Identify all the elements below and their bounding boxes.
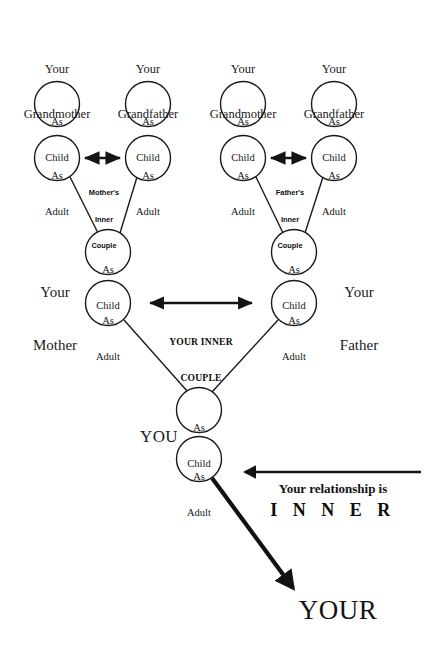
inner-couple-diagram: Your Grandmother Your Grandfather Your G… (0, 0, 429, 651)
title-your-father-line1: Your (326, 284, 392, 302)
title-maternal-grandmother-line1: Your (7, 62, 107, 77)
label-line2: Adult (173, 507, 225, 519)
caption-line2: Inner (262, 216, 318, 225)
label-father-as-adult: As Adult (268, 291, 320, 388)
label-line1: As (217, 116, 269, 128)
label-mother-as-adult: As Adult (82, 291, 134, 388)
caption-line1: YOUR INNER (151, 336, 251, 348)
label-line1: As (268, 264, 320, 276)
label-you-as-adult: As Adult (173, 447, 225, 544)
title-maternal-grandfather-line1: Your (98, 62, 198, 77)
label-line1: As (173, 422, 225, 434)
label-line1: As (173, 471, 225, 483)
caption-line1: Mother's (76, 189, 132, 198)
caption-your-inner-couple: YOUR INNER COUPLE (151, 312, 251, 408)
label-line1: As (82, 264, 134, 276)
title-paternal-grandmother-line1: Your (193, 62, 293, 77)
label-line2: Adult (82, 351, 134, 363)
label-line1: As (82, 315, 134, 327)
label-line2: Adult (268, 351, 320, 363)
relationship-line1: Your relationship is (253, 482, 413, 496)
title-your-mother-line1: Your (22, 284, 88, 302)
title-your-father: Your Father (326, 249, 392, 391)
title-paternal-grandfather-line1: Your (284, 62, 384, 77)
caption-line1: Father's (262, 189, 318, 198)
label-you: YOU (118, 428, 178, 446)
caption-line2: COUPLE (151, 372, 251, 384)
label-line1: As (122, 116, 174, 128)
caption-line2: Inner (76, 216, 132, 225)
relationship-line2: I N N E R (253, 501, 413, 520)
label-line1: As (308, 116, 360, 128)
title-your-mother-line2: Mother (22, 337, 88, 355)
label-line1: As (31, 116, 83, 128)
label-your-outcome: YOUR (283, 596, 393, 625)
title-your-mother: Your Mother (22, 249, 88, 391)
title-your-father-line2: Father (326, 337, 392, 355)
label-line1: As (268, 315, 320, 327)
